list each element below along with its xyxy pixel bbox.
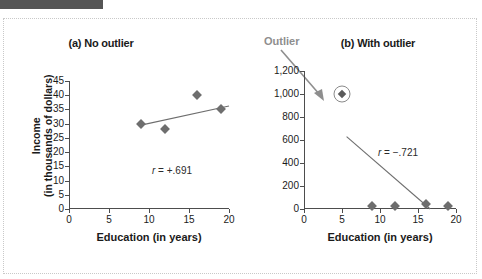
- x-tick-label: 5: [106, 215, 112, 225]
- panel-no-outlier: (a) No outlier Income (in thousands of d…: [4, 19, 242, 273]
- x-tick: [189, 209, 190, 213]
- panel-a-title: (a) No outlier: [0, 37, 220, 49]
- x-tick: [109, 209, 110, 213]
- x-tick-label: 15: [183, 215, 194, 225]
- x-tick-label: 5: [339, 215, 345, 225]
- y-tick-label: 10: [53, 176, 64, 186]
- y-tick-label: 20: [53, 147, 64, 157]
- panel-a-trendline: [69, 81, 229, 209]
- x-tick-label: 20: [450, 215, 461, 225]
- x-tick: [456, 209, 457, 213]
- x-tick-label: 0: [66, 215, 72, 225]
- x-tick-label: 15: [412, 215, 423, 225]
- x-tick: [418, 209, 419, 213]
- panel-b-trendline: [304, 71, 456, 209]
- x-tick: [304, 209, 305, 213]
- header-accent-bar: [0, 0, 103, 9]
- x-tick: [380, 209, 381, 213]
- x-tick: [69, 209, 70, 213]
- y-tick-label: 800: [282, 112, 299, 122]
- x-tick-label: 10: [374, 215, 385, 225]
- panel-b-plot-area: 0 200 400 600 800 1,000 1,200 0 5 10 15 …: [304, 71, 456, 209]
- y-tick-label: 400: [282, 158, 299, 168]
- x-tick: [149, 209, 150, 213]
- y-tick-label: 1,200: [274, 66, 299, 76]
- y-tick-label: 35: [53, 104, 64, 114]
- y-tick-label: 30: [53, 119, 64, 129]
- r-value: = −.721: [381, 147, 418, 158]
- y-tick-label: 0: [293, 204, 299, 214]
- x-tick: [229, 209, 230, 213]
- panel-a-correlation-annotation: r = +.691: [152, 165, 192, 176]
- y-tick-label: 45: [53, 76, 64, 86]
- y-tick-label: 200: [282, 181, 299, 191]
- panel-a-plot-area: 0 5 10 15 20 25 30 35 40 45 0 5 10 15 20: [69, 81, 229, 209]
- y-tick-label: 15: [53, 161, 64, 171]
- x-tick: [342, 209, 343, 213]
- r-value: = +.691: [155, 165, 192, 176]
- y-tick-label: 1,000: [274, 89, 299, 99]
- x-tick-label: 20: [223, 215, 234, 225]
- y-tick-label: 5: [58, 190, 64, 200]
- panel-a-x-axis-title: Education (in years): [59, 231, 239, 243]
- panel-a-y-axis-title: Income (in thousands of dollars): [30, 75, 54, 198]
- y-axis-title-line1: Income: [30, 117, 42, 154]
- x-tick-label: 10: [143, 215, 154, 225]
- figure-frame: (a) No outlier Income (in thousands of d…: [3, 18, 477, 274]
- outlier-callout-label: Outlier: [264, 35, 299, 47]
- panel-with-outlier: (b) With outlier Outlier 0 200 400 600 8…: [242, 19, 478, 273]
- panel-b-x-axis-title: Education (in years): [290, 231, 470, 243]
- y-tick-label: 0: [58, 204, 64, 214]
- y-tick-label: 600: [282, 135, 299, 145]
- y-tick-label: 40: [53, 90, 64, 100]
- x-tick-label: 0: [301, 215, 307, 225]
- panel-b-correlation-annotation: r = −.721: [378, 147, 418, 158]
- y-tick-label: 25: [53, 133, 64, 143]
